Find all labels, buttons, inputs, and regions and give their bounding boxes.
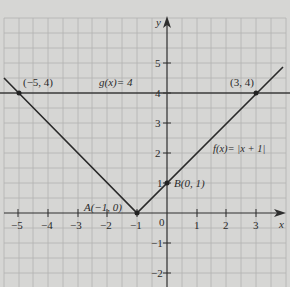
svg-text:−2: −2 [151,267,163,279]
svg-text:−1: −1 [151,237,163,249]
svg-text:2: 2 [155,147,161,159]
label-y-axis: y [155,16,161,28]
svg-text:1: 1 [157,177,163,189]
svg-text:−3: −3 [70,219,82,231]
svg-text:3: 3 [253,219,259,231]
x-tick-labels: −5 −4 −3 −2 −1 1 2 3 [11,219,259,231]
svg-text:−2: −2 [100,219,112,231]
label-origin: 0 [159,216,165,228]
label-x-axis: x [278,218,284,230]
point-3-4 [254,91,259,96]
svg-text:4: 4 [155,87,161,99]
label-B: B(0, 1) [174,177,205,190]
label-point-neg5-4: (−5, 4) [23,76,53,89]
label-point-3-4: (3, 4) [230,76,254,89]
svg-text:−4: −4 [41,219,53,231]
svg-text:1: 1 [194,219,200,231]
label-g: g(x)= 4 [99,76,133,89]
point-A [135,211,140,216]
svg-text:−1: −1 [130,219,142,231]
label-A: A(−1, 0) [83,201,122,214]
svg-text:−5: −5 [11,219,23,231]
point-neg5-4 [17,91,22,96]
svg-text:5: 5 [155,57,161,69]
point-B [165,181,170,186]
svg-text:3: 3 [155,117,161,129]
svg-text:2: 2 [223,219,229,231]
axes [4,22,280,287]
label-f: f(x)= |x + 1| [213,143,265,155]
graph-canvas: (−5, 4) g(x)= 4 (3, 4) f(x)= |x + 1| A(−… [0,0,290,287]
